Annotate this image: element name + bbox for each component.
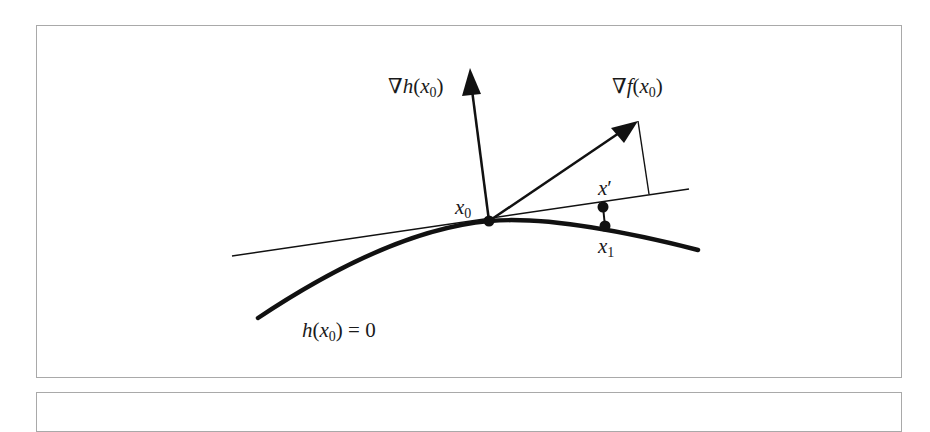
point-x1 bbox=[600, 221, 611, 232]
label-x-prime: x′ bbox=[598, 178, 612, 199]
label-grad-f: ∇f(x0) bbox=[612, 76, 663, 100]
grad-f-arrowhead bbox=[611, 121, 638, 143]
grad-h-arrowhead bbox=[462, 68, 481, 96]
point-x-prime bbox=[598, 202, 609, 213]
label-grad-h: ∇h(x0) bbox=[388, 76, 444, 100]
grad-h-arrow-shaft bbox=[472, 90, 489, 221]
label-x1: x1 bbox=[598, 236, 614, 260]
projection-line bbox=[638, 121, 649, 194]
label-x0: x0 bbox=[455, 197, 471, 221]
point-x0 bbox=[484, 216, 495, 227]
label-constraint: h(x0) = 0 bbox=[302, 320, 376, 344]
constraint-curve bbox=[258, 220, 698, 318]
